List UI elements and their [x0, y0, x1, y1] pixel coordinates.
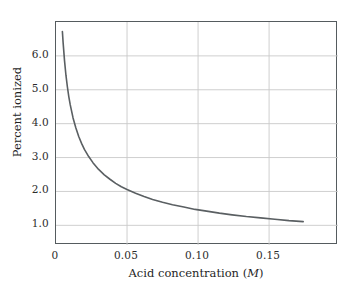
x-axis-label-symbol: M: [247, 266, 259, 280]
y-tick-label: 3.0: [15, 150, 49, 162]
x-axis-label-text: Acid concentration (: [129, 266, 248, 280]
y-tick-label: 4.0: [15, 116, 49, 128]
x-tick-label: 0.10: [177, 249, 217, 261]
y-tick-label: 6.0: [15, 48, 49, 60]
data-curve: [56, 22, 338, 245]
y-tick-label: 1.0: [15, 217, 49, 229]
y-tick-label: 2.0: [15, 183, 49, 195]
x-axis-label: Acid concentration (M): [55, 266, 337, 280]
y-tick-label: 5.0: [15, 82, 49, 94]
x-tick-label: 0.05: [106, 249, 146, 261]
x-axis-label-tail: ): [259, 266, 264, 280]
x-tick-label: 0: [35, 249, 75, 261]
y-axis-label-text: Percent ionized: [10, 66, 24, 156]
plot-area: [55, 21, 337, 244]
chart-figure: Percent ionized 1.02.03.04.05.06.0 00.05…: [0, 0, 352, 290]
x-tick-label: 0.15: [248, 249, 288, 261]
series-line: [62, 31, 303, 221]
